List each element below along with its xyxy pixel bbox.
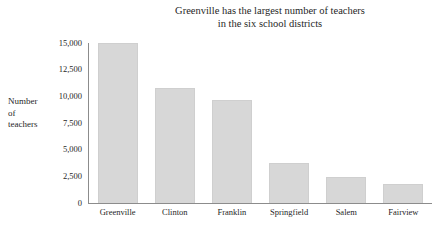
bar [155,88,195,203]
y-axis-tick-label: 5,000 [36,145,82,154]
plot-area: 02,5005,0007,50010,00012,50015,000 Green… [0,0,432,228]
y-axis-tick-label: 7,500 [36,119,82,128]
x-axis-category-labels: GreenvilleClintonFranklinSpringfieldSale… [89,206,432,222]
bar [98,43,138,203]
x-axis-category-label: Fairview [368,206,432,218]
bar [326,177,366,203]
y-axis-tick-label: 12,500 [36,65,82,74]
y-axis-tick-labels: 02,5005,0007,50010,00012,50015,000 [34,0,82,228]
y-axis-tick-label: 15,000 [36,39,82,48]
bar [383,184,423,203]
y-axis-tick-label: 0 [36,199,82,208]
y-axis-tick-label: 2,500 [36,172,82,181]
bar [212,100,252,203]
bar [269,163,309,203]
y-axis-tick-label: 10,000 [36,92,82,101]
bar-series [89,0,432,228]
